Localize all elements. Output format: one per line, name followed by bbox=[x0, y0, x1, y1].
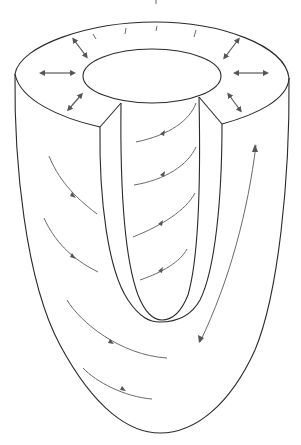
inner-opening bbox=[83, 49, 221, 103]
fiber-outer bbox=[44, 218, 98, 272]
rim-tick bbox=[156, 26, 157, 31]
fiber-outer bbox=[67, 300, 167, 358]
rim-tick bbox=[125, 28, 126, 34]
fiber-outer bbox=[49, 156, 97, 214]
ventricle-diagram bbox=[0, 0, 301, 445]
rim-tick bbox=[93, 34, 96, 39]
longitudinal-arrow-head-top bbox=[252, 144, 258, 152]
radial-arrow bbox=[69, 95, 81, 109]
outer-wall bbox=[15, 74, 289, 433]
radial-arrow bbox=[74, 40, 86, 56]
cut-wall-right-outer bbox=[160, 124, 222, 322]
outer-rim bbox=[15, 22, 289, 78]
fiber-inner bbox=[133, 193, 195, 237]
rim-tick bbox=[194, 30, 196, 37]
cut-face-right bbox=[199, 97, 222, 124]
radial-arrow bbox=[229, 95, 240, 110]
cavity-left bbox=[121, 103, 162, 320]
fiber-inner bbox=[136, 103, 196, 142]
fiber-outer-head bbox=[120, 386, 126, 391]
rim-front-right bbox=[222, 78, 289, 124]
cut-face-left bbox=[100, 103, 121, 127]
radial-arrow bbox=[225, 40, 238, 57]
rim-front-left bbox=[15, 74, 100, 127]
fiber-inner bbox=[140, 249, 187, 280]
cut-wall-left-outer bbox=[100, 127, 160, 322]
longitudinal-arrow bbox=[200, 145, 256, 342]
cavity-right bbox=[162, 97, 200, 320]
fiber-inner bbox=[134, 147, 196, 185]
